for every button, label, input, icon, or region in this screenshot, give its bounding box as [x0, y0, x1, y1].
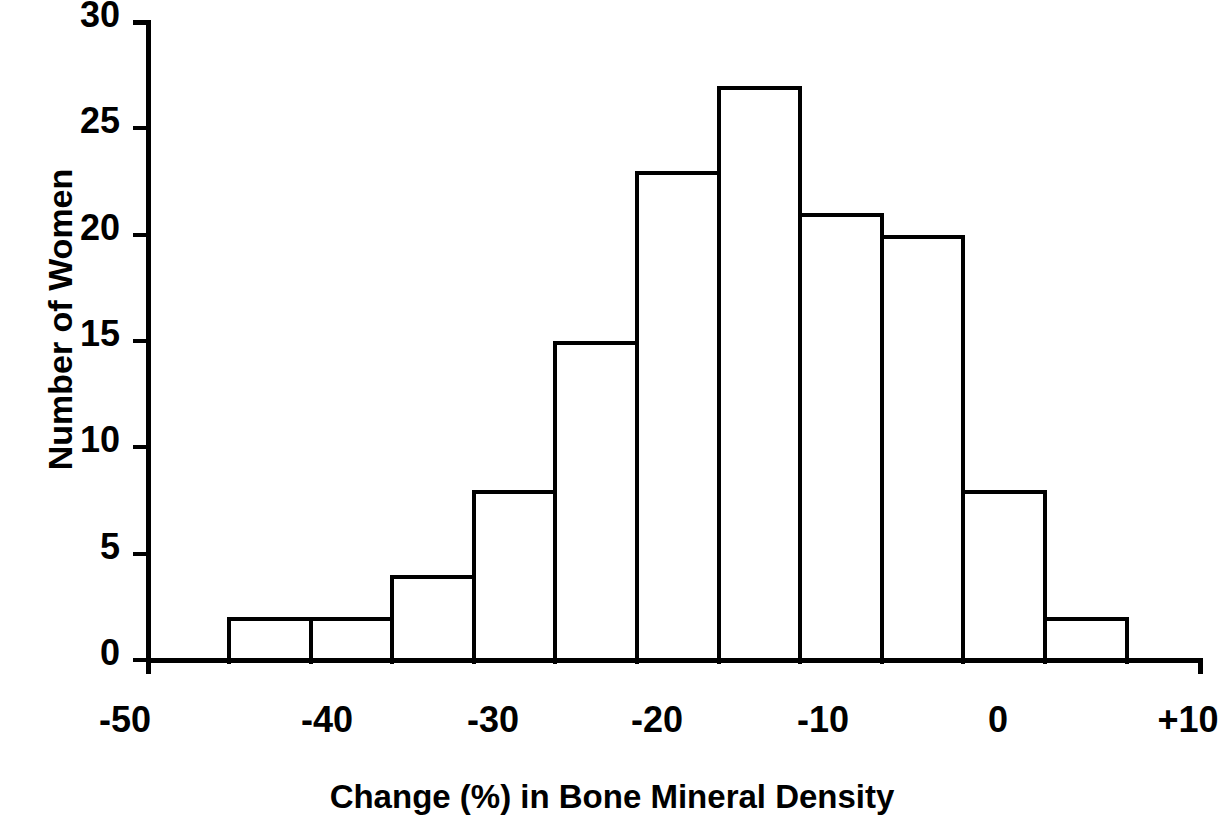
x-axis-right-cap	[1198, 658, 1203, 674]
x-tick-label--40: -40	[257, 702, 397, 738]
histogram-figure: Number of Women 302520151050 -50-40-30-2…	[0, 0, 1224, 827]
x-tick-label--50: -50	[55, 702, 195, 738]
histogram-bar	[390, 575, 476, 664]
histogram-bar	[1043, 617, 1129, 664]
histogram-bar	[472, 490, 558, 664]
histogram-bar	[553, 341, 639, 664]
histogram-bar	[717, 86, 803, 664]
histogram-bar	[309, 617, 395, 664]
x-tick-label--20: -20	[587, 702, 727, 738]
x-axis-left-cap	[146, 658, 151, 674]
x-tick-label--10: -10	[753, 702, 893, 738]
histogram-bar	[798, 213, 884, 664]
x-tick-label--30: -30	[423, 702, 563, 738]
x-tick-label-0: 0	[928, 702, 1068, 738]
histogram-bar	[961, 490, 1047, 664]
x-axis-title: Change (%) in Bone Mineral Density	[0, 778, 1224, 816]
histogram-bar	[635, 171, 721, 664]
x-tick-label-plus10: +10	[1118, 702, 1224, 738]
histogram-bar	[880, 235, 966, 664]
histogram-bar	[227, 617, 313, 664]
